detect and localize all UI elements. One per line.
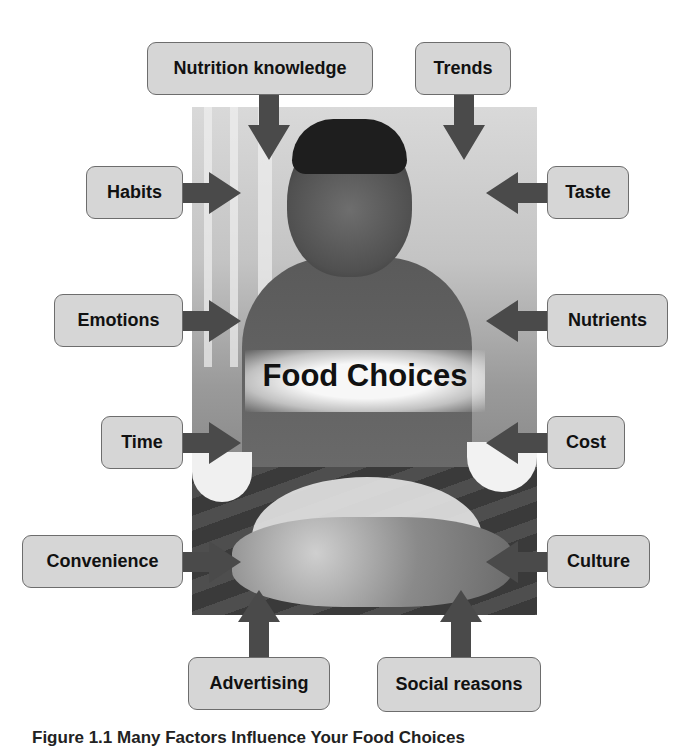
arrow-left-icon (486, 172, 548, 214)
arrow-right-icon (183, 422, 241, 464)
factor-social-reasons: Social reasons (377, 657, 541, 712)
factor-nutrition-knowledge: Nutrition knowledge (147, 42, 373, 95)
arrow-down-icon (443, 95, 485, 160)
arrow-left-icon (486, 300, 548, 342)
factor-trends: Trends (415, 42, 511, 95)
factor-time: Time (101, 416, 183, 469)
center-label: Food Choices (245, 358, 485, 394)
arrow-right-icon (183, 172, 241, 214)
factor-convenience: Convenience (22, 535, 183, 588)
arrow-up-icon (440, 590, 482, 657)
figure-caption: Figure 1.1 Many Factors Influence Your F… (32, 728, 465, 748)
arrow-down-icon (248, 95, 290, 160)
arrow-right-icon (183, 541, 241, 583)
factor-advertising: Advertising (188, 657, 330, 710)
arrow-up-icon (238, 590, 280, 657)
arrow-left-icon (486, 422, 548, 464)
arrow-right-icon (183, 300, 241, 342)
woman-hair (292, 119, 407, 174)
factor-nutrients: Nutrients (547, 294, 668, 347)
factor-cost: Cost (547, 416, 625, 469)
factor-taste: Taste (547, 166, 629, 219)
factor-emotions: Emotions (54, 294, 183, 347)
arrow-left-icon (486, 541, 548, 583)
factor-culture: Culture (547, 535, 650, 588)
factor-habits: Habits (86, 166, 183, 219)
